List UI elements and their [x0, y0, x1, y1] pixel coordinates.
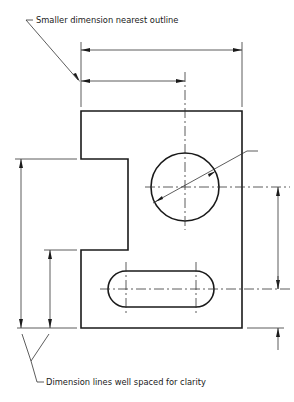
hole-slot-arrow-top-icon — [276, 187, 280, 196]
outer-arrow-top-icon — [19, 159, 23, 168]
top-note-text: Smaller dimension nearest outline — [36, 15, 178, 25]
part-outline — [81, 111, 242, 328]
inner-arrow-bottom-icon — [48, 319, 52, 328]
top-leader-line — [26, 20, 78, 80]
width-arrow-left-icon — [81, 48, 90, 52]
bottom-leader-line — [31, 361, 44, 382]
diameter-arrow-lower-icon — [155, 196, 163, 202]
slot-base-arrow-icon — [276, 328, 280, 337]
outer-arrow-bottom-icon — [19, 319, 23, 328]
horizontal-dimensions — [81, 42, 242, 107]
technical-drawing: Smaller dimension nearest outline — [0, 0, 294, 402]
slot-hole — [100, 262, 290, 316]
inner-arrow-top-icon — [48, 250, 52, 259]
bottom-leader-branches — [22, 334, 49, 361]
top-leader-arrowhead-icon — [73, 73, 80, 82]
hole-pos-arrow-right-icon — [176, 79, 185, 83]
width-arrow-right-icon — [233, 48, 242, 52]
bottom-annotation: Dimension lines well spaced for clarity — [22, 334, 206, 387]
bottom-note-text: Dimension lines well spaced for clarity — [46, 377, 206, 387]
top-annotation: Smaller dimension nearest outline — [26, 15, 178, 82]
left-vertical-dimensions — [15, 159, 77, 328]
right-vertical-dimensions — [247, 187, 284, 350]
hole-pos-arrow-left-icon — [81, 79, 90, 83]
circular-hole — [145, 72, 290, 230]
